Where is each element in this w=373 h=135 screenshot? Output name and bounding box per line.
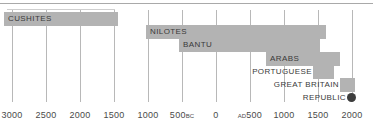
bar-label: ARABS (266, 52, 299, 66)
timeline-bar (340, 78, 355, 92)
axis-tick-label: 1000 (273, 110, 294, 120)
axis-tick-label: AD500 (238, 110, 262, 120)
axis-tick-label: 1500 (103, 110, 124, 120)
axis-tick-label: 2000 (69, 110, 90, 120)
axis-tick-label: 2500 (35, 110, 56, 120)
bar-label: CUSHITES (4, 12, 52, 26)
timeline-chart: CUSHITESNILOTESBANTUARABSPORTUGUESEGREAT… (0, 0, 373, 135)
gridline (182, 10, 183, 102)
axis-tick-label: 3000 (1, 110, 22, 120)
axis-tick-label: 1500 (307, 110, 328, 120)
axis-tick-label: 2000 (341, 110, 362, 120)
top-divider (0, 3, 373, 4)
plot-area: CUSHITESNILOTESBANTUARABSPORTUGUESEGREAT… (0, 10, 373, 102)
x-axis: 30002500200015001000500BC0AD500100015002… (0, 102, 373, 135)
gridline (148, 10, 149, 102)
bar-marker-dot (347, 93, 356, 102)
axis-tick-label: 1000 (137, 110, 158, 120)
timeline-bar (313, 65, 334, 79)
axis-tick-label: 500BC (170, 110, 194, 120)
axis-tick-label: 0 (213, 110, 218, 120)
gridline (250, 10, 251, 102)
bar-label: BANTU (179, 38, 212, 52)
bar-label: NILOTES (146, 25, 187, 39)
bar-label: PORTUGUESE (252, 65, 313, 79)
gridline (216, 10, 217, 102)
bar-label: GREAT BRITAIN (274, 78, 340, 92)
